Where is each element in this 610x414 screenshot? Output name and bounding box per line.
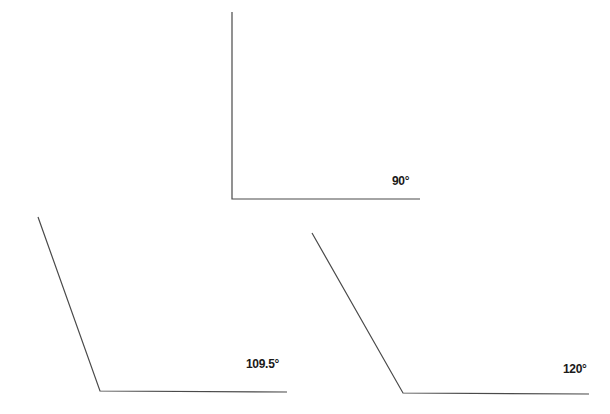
angle-90 <box>232 12 420 199</box>
angle-120 <box>312 233 589 394</box>
angle-90-lines <box>232 12 420 199</box>
angle-diagram <box>0 0 610 414</box>
angle-label-90: 90° <box>392 175 409 187</box>
angle-120-lines <box>312 233 589 394</box>
angle-label-120: 120° <box>563 363 587 375</box>
angle-label-109-5: 109.5° <box>246 358 279 370</box>
